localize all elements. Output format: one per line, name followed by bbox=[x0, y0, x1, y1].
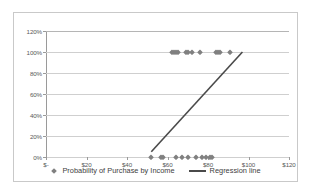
plot-area: 0%20%40%60%80%100%120% $-$20$40$60$80$10… bbox=[46, 31, 289, 157]
line-marker-icon bbox=[189, 170, 206, 172]
chart-legend: Probability of Purchase by Income Regres… bbox=[14, 166, 297, 175]
x-tick-mark bbox=[249, 157, 250, 160]
y-tick-label: 100% bbox=[27, 49, 42, 56]
chart-container: 0%20%40%60%80%100%120% $-$20$40$60$80$10… bbox=[13, 12, 298, 182]
y-tick-label: 80% bbox=[30, 70, 42, 77]
x-tick-mark bbox=[127, 157, 128, 160]
y-tick-label: 60% bbox=[30, 91, 42, 98]
y-tick-label: 40% bbox=[30, 112, 42, 119]
x-tick-mark bbox=[87, 157, 88, 160]
y-tick-label: 0% bbox=[33, 154, 42, 161]
legend-label-regression: Regression line bbox=[210, 166, 261, 175]
diamond-marker-icon bbox=[52, 168, 58, 174]
y-tick-label: 20% bbox=[30, 133, 42, 140]
legend-label-scatter: Probability of Purchase by Income bbox=[62, 166, 174, 175]
legend-item-regression[interactable]: Regression line bbox=[189, 166, 261, 175]
y-tick-label: 120% bbox=[27, 28, 42, 35]
x-tick-mark bbox=[289, 157, 290, 160]
x-tick-mark bbox=[168, 157, 169, 160]
regression-line bbox=[46, 31, 289, 157]
legend-item-scatter[interactable]: Probability of Purchase by Income bbox=[50, 166, 174, 175]
x-tick-mark bbox=[46, 157, 47, 160]
